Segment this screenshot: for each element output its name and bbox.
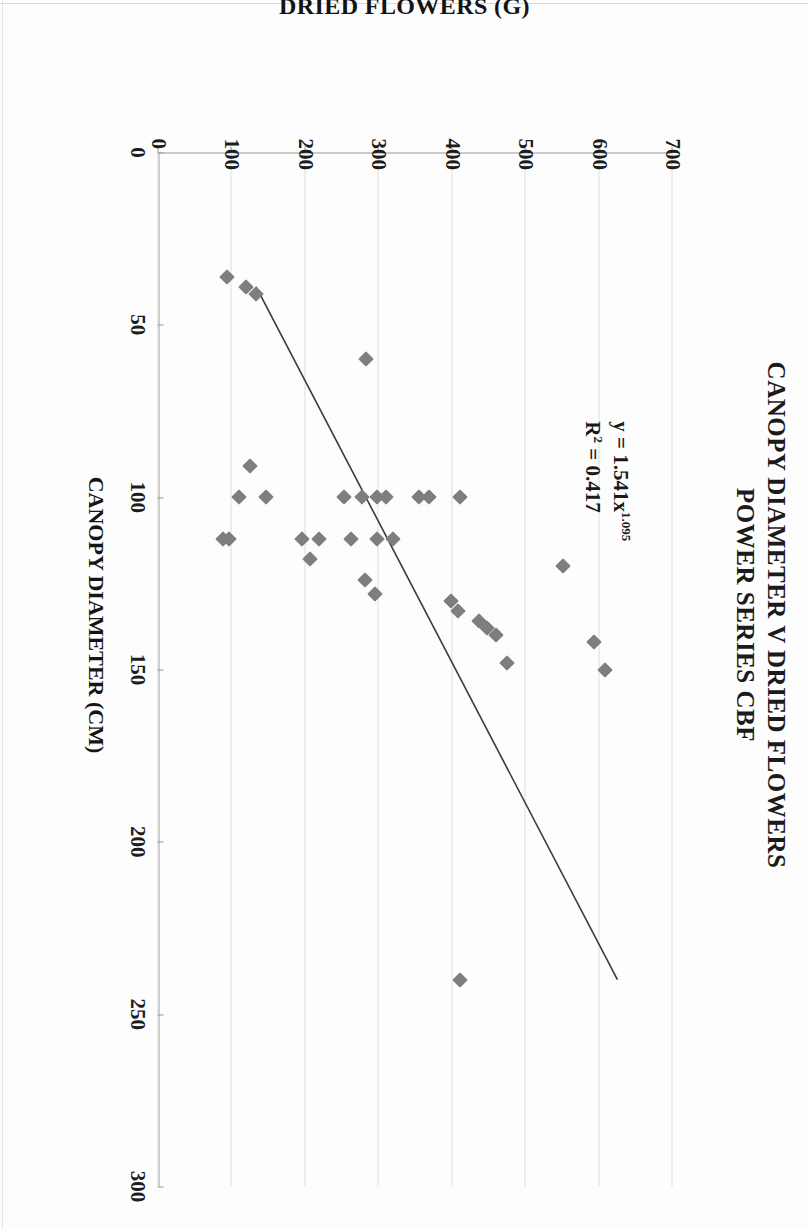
chart-title-line-1: CANOPY DIAMETER V DRIED FLOWERS: [760, 0, 791, 1229]
y-axis-title: DRIED FLOWERS (G): [0, 0, 808, 32]
x-tick-label: 250: [124, 998, 149, 1030]
r-squared-sup: 2: [590, 436, 605, 443]
x-tick-label: 150: [124, 653, 149, 685]
chart-title: CANOPY DIAMETER V DRIED FLOWERS POWER SE…: [729, 0, 790, 1229]
equation-exponent: 1.095: [618, 512, 633, 541]
chart-figure: CANOPY DIAMETER V DRIED FLOWERS POWER SE…: [0, 0, 808, 1229]
equation-text: y = 1.541x: [608, 421, 632, 512]
r-squared-prefix: R: [580, 421, 604, 436]
x-tick-label: 50: [124, 314, 149, 335]
scanned-chart-page: CANOPY DIAMETER V DRIED FLOWERS POWER SE…: [0, 0, 808, 1229]
trendline-equation-annotation: y = 1.541x1.095 R2 = 0.417: [577, 421, 634, 541]
r-squared-line: R2 = 0.417: [577, 421, 605, 541]
x-axis-title: CANOPY DIAMETER (CM): [82, 0, 108, 1229]
equation-line: y = 1.541x1.095: [606, 421, 634, 541]
x-tick-label: 300: [124, 1170, 149, 1202]
r-squared-value: = 0.417: [580, 443, 604, 513]
x-tick-label: 200: [124, 826, 149, 858]
power-trendline: [158, 152, 672, 1186]
x-tick-label: 100: [124, 481, 149, 513]
y-tick-label: 0: [146, 138, 171, 149]
chart-title-line-2: POWER SERIES CBF: [729, 0, 760, 1229]
plot-area: 050100150200250300 010020030040050060070…: [158, 152, 672, 1186]
